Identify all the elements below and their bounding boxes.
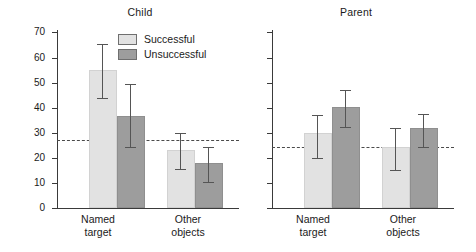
legend-item-successful: Successful [118,33,206,46]
panel-child: Child Mean percentage of frames 70 60 50… [0,0,246,252]
y-axis-line [57,30,58,209]
reference-line-child [57,140,239,141]
x-category-label-parent-2: Other objects [363,213,443,238]
y-tick-60-parent [267,58,272,59]
y-tick-10: 10 [52,183,57,184]
x-category-label-child-2: Other objects [148,213,228,238]
bar-child-other-unsuccessful [195,163,223,208]
error-bar-line [208,147,209,182]
y-ticklabel-50: 50 [34,78,45,88]
panel-child-title: Child [100,6,180,18]
error-bar-cap-lower [390,170,401,171]
error-bar-line [102,44,103,98]
panel-parent: Parent Named target Other objects [246,0,476,252]
error-bar-cap-upper [312,115,323,116]
bar-parent-named-unsuccessful [332,107,360,208]
error-bar-cap-upper [203,147,214,148]
bar-child-named-successful [89,70,117,208]
legend-swatch-unsuccessful-icon [118,49,137,60]
error-bar-cap-upper [97,44,108,45]
y-axis-label: Mean percentage of frames [0,29,2,209]
x-axis-line [57,208,239,209]
y-tick-30-parent [267,133,272,134]
error-bar-cap-lower [125,147,136,148]
error-bar-cap-lower [418,147,429,148]
y-tick-30: 30 [52,133,57,134]
x-category-parent-1-line1: Named [296,213,330,225]
legend-swatch-successful-icon [118,34,137,45]
y-tick-0: 0 [52,208,57,209]
y-tick-50-parent [267,83,272,84]
error-bar-cap-lower [175,169,186,170]
bar-parent-other-successful [382,147,410,208]
error-bar-cap-lower [97,98,108,99]
y-ticklabel-20: 20 [34,153,45,163]
y-tick-40-parent [267,108,272,109]
x-category-child-2-line2: objects [171,226,204,238]
error-bar-cap-lower [312,158,323,159]
error-bar-cap-upper [390,128,401,129]
error-bar-cap-upper [175,133,186,134]
legend: Successful Unsuccessful [118,33,206,63]
legend-item-unsuccessful: Unsuccessful [118,48,206,61]
x-category-parent-2-line2: objects [386,226,419,238]
error-bar-line [345,90,346,126]
y-ticklabel-10: 10 [34,178,45,188]
y-tick-60: 60 [52,58,57,59]
y-tick-50: 50 [52,83,57,84]
bar-child-other-successful [167,150,195,208]
y-tick-0-parent [267,208,272,209]
error-bar-cap-lower [340,127,351,128]
legend-label-successful: Successful [144,34,195,45]
error-bar-cap-upper [340,90,351,91]
y-axis-line-parent [272,30,273,209]
bar-parent-other-unsuccessful [410,128,438,208]
bar-parent-named-successful [304,133,332,208]
x-category-child-1-line2: target [85,226,112,238]
error-bar-line [423,114,424,147]
x-category-child-1-line1: Named [81,213,115,225]
x-axis-line-parent [272,208,454,209]
x-category-parent-1-line2: target [300,226,327,238]
error-bar-line [130,84,131,147]
y-ticklabel-60: 60 [34,53,45,63]
x-category-child-2-line1: Other [175,213,201,225]
chart-figure: Child Mean percentage of frames 70 60 50… [0,0,476,252]
error-bar-cap-lower [203,182,214,183]
legend-label-unsuccessful: Unsuccessful [144,49,206,60]
error-bar-line [180,133,181,169]
panel-parent-title: Parent [316,6,396,18]
y-tick-40: 40 [52,108,57,109]
y-ticklabel-0: 0 [39,203,45,213]
y-tick-20: 20 [52,158,57,159]
y-tick-70-parent [267,32,272,33]
y-tick-20-parent [267,158,272,159]
y-ticklabel-70: 70 [34,27,45,37]
plot-area-parent [272,30,454,209]
y-tick-70: 70 [52,32,57,33]
error-bar-line [395,128,396,171]
x-category-label-parent-1: Named target [273,213,353,238]
y-ticklabel-40: 40 [34,103,45,113]
error-bar-line [317,115,318,158]
x-category-label-child-1: Named target [58,213,138,238]
bar-child-named-unsuccessful [117,116,145,208]
error-bar-cap-upper [418,114,429,115]
y-tick-10-parent [267,183,272,184]
x-category-parent-2-line1: Other [390,213,416,225]
error-bar-cap-upper [125,84,136,85]
y-ticklabel-30: 30 [34,128,45,138]
